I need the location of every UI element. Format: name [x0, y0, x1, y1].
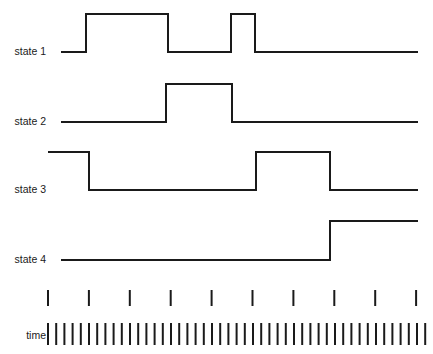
waveform-trace-state-1 — [61, 14, 418, 52]
timing-diagram-canvas: state 1state 2state 3state 4time — [0, 0, 433, 354]
waveform-label-state-1: state 1 — [14, 45, 46, 57]
timing-diagram-figure: state 1state 2state 3state 4time — [0, 0, 433, 354]
waveform-trace-state-3 — [48, 152, 418, 190]
time-axis-label: time — [26, 329, 46, 341]
time-axis-group — [48, 290, 425, 345]
waveform-label-state-4: state 4 — [14, 253, 46, 265]
waveform-label-state-2: state 2 — [14, 115, 46, 127]
waveform-label-state-3: state 3 — [14, 183, 46, 195]
labels-group: state 1state 2state 3state 4time — [14, 45, 46, 341]
waveform-trace-state-2 — [61, 84, 418, 122]
waveform-rows-group — [48, 14, 418, 260]
waveform-trace-state-4 — [61, 221, 418, 260]
